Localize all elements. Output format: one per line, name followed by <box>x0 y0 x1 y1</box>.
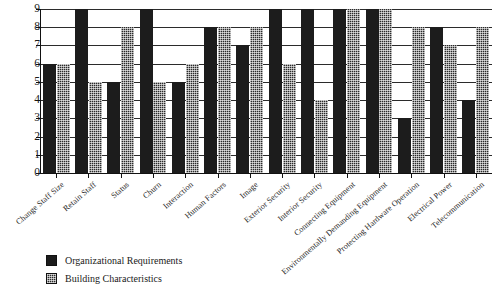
legend-item-building-characteristics: Building Characteristics <box>46 271 296 286</box>
bar <box>366 9 379 173</box>
bar <box>172 82 185 173</box>
x-tick-mark <box>444 173 445 178</box>
x-tick-mark <box>153 173 154 178</box>
y-axis: 0123456789 <box>0 9 40 173</box>
x-tick-label: Change Staff Size <box>14 180 66 227</box>
legend-label: Organizational Requirements <box>65 255 182 266</box>
x-tick-mark <box>411 173 412 178</box>
x-tick-mark <box>218 173 219 178</box>
bar <box>430 27 443 173</box>
bar <box>43 64 56 173</box>
bar <box>218 27 231 173</box>
x-tick-label: Retain Staff <box>62 180 98 213</box>
bar <box>283 64 296 173</box>
bar <box>75 9 88 173</box>
bar <box>444 45 457 173</box>
x-tick-mark <box>476 173 477 178</box>
bar <box>269 9 282 173</box>
legend-swatch-hatch-icon <box>46 273 57 284</box>
bar <box>236 45 249 173</box>
bar <box>347 9 360 173</box>
x-tick-mark <box>250 173 251 178</box>
x-tick-mark <box>185 173 186 178</box>
x-tick-mark <box>314 173 315 178</box>
bar <box>333 9 346 173</box>
bar <box>107 82 120 173</box>
bar <box>398 118 411 173</box>
bar <box>462 100 475 173</box>
bar <box>379 9 392 173</box>
bar <box>412 27 425 173</box>
x-tick-mark <box>347 173 348 178</box>
x-tick-mark <box>282 173 283 178</box>
legend: Organizational Requirements Building Cha… <box>46 253 296 289</box>
x-tick-label: Connecting Equipment <box>292 180 357 238</box>
legend-swatch-solid-icon <box>46 255 57 266</box>
x-tick-label: Image <box>238 180 260 201</box>
bar <box>476 27 489 173</box>
legend-label: Building Characteristics <box>65 273 162 284</box>
bar <box>153 82 166 173</box>
bar <box>301 9 314 173</box>
x-tick-label: Status <box>109 180 130 200</box>
x-axis-ticks <box>40 173 492 179</box>
bar <box>140 9 153 173</box>
x-tick-mark <box>379 173 380 178</box>
x-tick-mark <box>56 173 57 178</box>
bar <box>315 100 328 173</box>
legend-item-organizational-requirements: Organizational Requirements <box>46 253 296 268</box>
x-tick-mark <box>88 173 89 178</box>
bar <box>89 82 102 173</box>
bar <box>186 64 199 173</box>
x-tick-mark <box>121 173 122 178</box>
bar-chart: 0123456789 Change Staff SizeRetain Staff… <box>0 0 499 304</box>
bar <box>121 27 134 173</box>
bar <box>204 27 217 173</box>
bar <box>57 64 70 173</box>
x-tick-label: Churn <box>141 180 163 201</box>
x-axis-labels: Change Staff SizeRetain StaffStatusChurn… <box>40 180 499 260</box>
bars-layer <box>40 9 492 173</box>
bar <box>250 27 263 173</box>
